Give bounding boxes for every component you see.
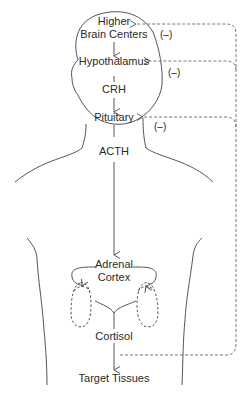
left-adrenal-gland <box>71 283 91 327</box>
brain-centers-label: Brain Centers <box>70 28 158 41</box>
hypothalamus-label: Hypothalamus <box>70 55 158 68</box>
shoulder-left <box>15 148 82 182</box>
adrenal-label: Adrenal <box>84 258 144 271</box>
neck-left <box>82 124 86 148</box>
gland-right-branch <box>114 301 136 313</box>
target-tissues-label: Target Tissues <box>64 372 164 385</box>
higher-label: Higher <box>70 15 158 28</box>
higher-brain-centers-label: Higher Brain Centers <box>70 15 158 41</box>
crh-label: CRH <box>90 83 138 96</box>
feedback-pituitary-negative-label: (–) <box>154 120 166 133</box>
shoulder-right <box>146 148 213 182</box>
cortex-label: Cortex <box>84 271 144 284</box>
torso-right <box>182 238 202 385</box>
hpa-axis-diagram: Higher Brain Centers Hypothalamus CRH Pi… <box>0 0 248 393</box>
right-adrenal-gland <box>137 283 158 327</box>
cortisol-label: Cortisol <box>84 330 144 343</box>
acth-label: ACTH <box>90 145 138 158</box>
feedback-to-hypothalamus <box>150 61 236 70</box>
feedback-brain-negative-label: (–) <box>160 28 172 41</box>
pituitary-label: Pituitary <box>82 111 146 124</box>
adrenal-cortex-label: Adrenal Cortex <box>84 258 144 284</box>
feedback-hypothalamus-negative-label: (–) <box>168 66 180 79</box>
gland-left-branch <box>95 301 114 313</box>
torso-left <box>27 238 47 385</box>
